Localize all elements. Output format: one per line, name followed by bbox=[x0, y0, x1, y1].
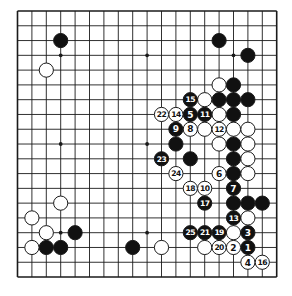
move-number: 8 bbox=[187, 124, 193, 134]
black-stone bbox=[39, 240, 53, 254]
white-stone bbox=[25, 240, 39, 254]
black-stone-21: 21 bbox=[198, 226, 212, 240]
black-stone bbox=[54, 33, 68, 47]
black-stone-1: 1 bbox=[241, 240, 255, 254]
move-number: 18 bbox=[186, 184, 196, 193]
black-stone-23: 23 bbox=[154, 152, 168, 166]
move-number: 2 bbox=[230, 243, 236, 253]
white-stone-24: 24 bbox=[169, 166, 183, 180]
black-stone bbox=[226, 107, 240, 121]
white-stone bbox=[212, 137, 226, 151]
move-number: 10 bbox=[200, 184, 210, 193]
move-number: 5 bbox=[187, 110, 193, 120]
move-number: 1 bbox=[245, 243, 251, 253]
white-stone-14: 14 bbox=[169, 107, 183, 121]
black-stone-5: 5 bbox=[183, 107, 197, 121]
black-stone bbox=[212, 93, 226, 107]
black-stone bbox=[226, 196, 240, 210]
move-number: 16 bbox=[258, 258, 268, 267]
white-stone bbox=[241, 137, 255, 151]
move-number: 23 bbox=[157, 155, 167, 164]
move-number: 25 bbox=[186, 228, 196, 237]
white-stone-18: 18 bbox=[183, 181, 197, 195]
white-stone bbox=[226, 226, 240, 240]
move-number: 24 bbox=[171, 169, 181, 178]
move-number: 21 bbox=[200, 228, 210, 237]
black-stone bbox=[241, 93, 255, 107]
move-number: 17 bbox=[200, 199, 210, 208]
white-stone bbox=[226, 122, 240, 136]
white-stone bbox=[54, 196, 68, 210]
move-number: 6 bbox=[216, 169, 222, 179]
go-board: 1234567891011121314151617181920212223242… bbox=[0, 0, 292, 296]
black-stone-17: 17 bbox=[198, 196, 212, 210]
star-point bbox=[145, 53, 149, 57]
black-stone-13: 13 bbox=[226, 211, 240, 225]
black-stone bbox=[54, 240, 68, 254]
black-stone bbox=[169, 137, 183, 151]
white-stone bbox=[154, 240, 168, 254]
move-number: 19 bbox=[214, 228, 224, 237]
star-point bbox=[59, 142, 63, 146]
white-stone bbox=[241, 152, 255, 166]
black-stone-19: 19 bbox=[212, 226, 226, 240]
move-number: 20 bbox=[214, 243, 224, 252]
white-stone bbox=[198, 93, 212, 107]
white-stone-8: 8 bbox=[183, 122, 197, 136]
black-stone-11: 11 bbox=[198, 107, 212, 121]
move-number: 9 bbox=[173, 124, 179, 134]
move-number: 4 bbox=[245, 258, 251, 268]
black-stone-3: 3 bbox=[241, 226, 255, 240]
white-stone bbox=[241, 166, 255, 180]
move-number: 12 bbox=[214, 125, 224, 134]
black-stone-9: 9 bbox=[169, 122, 183, 136]
white-stone bbox=[241, 122, 255, 136]
move-number: 15 bbox=[186, 95, 196, 104]
black-stone bbox=[226, 93, 240, 107]
black-stone bbox=[226, 78, 240, 92]
white-stone bbox=[39, 226, 53, 240]
white-stone bbox=[39, 63, 53, 77]
black-stone bbox=[183, 152, 197, 166]
white-stone-16: 16 bbox=[255, 255, 269, 269]
white-stone bbox=[25, 211, 39, 225]
star-point bbox=[59, 231, 63, 235]
move-number: 14 bbox=[171, 110, 181, 119]
black-stone-7: 7 bbox=[226, 181, 240, 195]
move-number: 13 bbox=[229, 214, 239, 223]
black-stone-15: 15 bbox=[183, 93, 197, 107]
white-stone bbox=[198, 122, 212, 136]
white-stone-22: 22 bbox=[154, 107, 168, 121]
black-stone bbox=[241, 48, 255, 62]
white-stone bbox=[212, 78, 226, 92]
star-point bbox=[59, 53, 63, 57]
move-number: 3 bbox=[245, 228, 251, 238]
black-stone bbox=[226, 166, 240, 180]
black-stone bbox=[126, 240, 140, 254]
go-board-diagram: 1234567891011121314151617181920212223242… bbox=[0, 0, 292, 296]
move-number: 7 bbox=[230, 184, 236, 194]
white-stone-2: 2 bbox=[226, 240, 240, 254]
black-stone bbox=[241, 196, 255, 210]
black-stone bbox=[68, 226, 82, 240]
black-stone bbox=[255, 196, 269, 210]
black-stone bbox=[226, 152, 240, 166]
black-stone-25: 25 bbox=[183, 226, 197, 240]
white-stone-20: 20 bbox=[212, 240, 226, 254]
star-point bbox=[232, 53, 236, 57]
black-stone bbox=[212, 33, 226, 47]
move-number: 22 bbox=[157, 110, 167, 119]
white-stone-12: 12 bbox=[212, 122, 226, 136]
star-point bbox=[145, 231, 149, 235]
star-point bbox=[145, 142, 149, 146]
white-stone bbox=[198, 240, 212, 254]
white-stone-6: 6 bbox=[212, 166, 226, 180]
black-stone bbox=[226, 137, 240, 151]
white-stone bbox=[241, 211, 255, 225]
white-stone-4: 4 bbox=[241, 255, 255, 269]
move-number: 11 bbox=[200, 110, 210, 119]
white-stone bbox=[212, 107, 226, 121]
white-stone-10: 10 bbox=[198, 181, 212, 195]
